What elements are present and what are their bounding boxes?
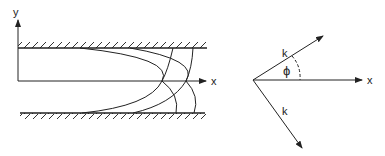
k-vector-down (253, 80, 302, 148)
diagram-canvas: y x x k k ϕ (0, 0, 385, 156)
vector-x-axis-label: x (367, 74, 373, 86)
angle-phi-label: ϕ (283, 63, 290, 78)
x-axis-label: x (211, 75, 217, 87)
k-vector-down-label: k (282, 105, 288, 117)
channel-diagram: y x (13, 6, 217, 119)
bottom-wall-hatch (20, 113, 206, 119)
y-axis-label: y (13, 6, 19, 18)
top-wall-hatch (18, 42, 208, 48)
wave-vector-diagram: x k k ϕ (253, 36, 373, 148)
k-vector-up-label: k (282, 47, 288, 59)
angle-arc (292, 56, 300, 80)
